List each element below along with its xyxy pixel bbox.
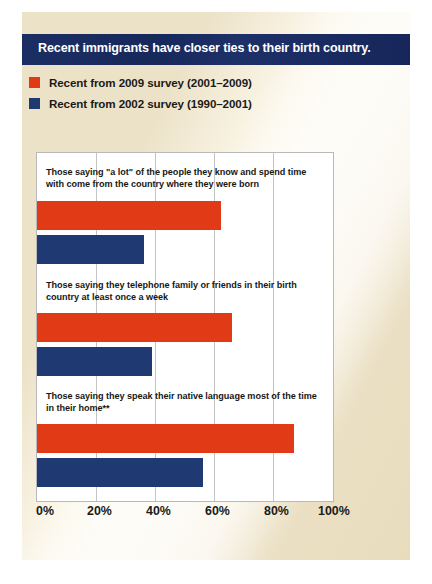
bar-red [37,201,221,230]
plot-wrapper: Those saying "a lot" of the people they … [36,152,346,502]
legend-swatch-blue [29,98,40,109]
category-label: Those saying "a lot" of the people they … [46,166,326,190]
bar-blue [37,347,152,376]
plot-area: Those saying "a lot" of the people they … [36,152,334,502]
chart-card: Recent immigrants have closer ties to th… [22,12,410,560]
bar-red [37,313,232,342]
bar-blue [37,235,144,264]
page-title: Recent immigrants have closer ties to th… [38,41,371,55]
bar-red [37,424,294,453]
x-tick-label: 0% [36,504,54,518]
category-label: Those saying they telephone family or fr… [46,279,326,303]
title-banner: Recent immigrants have closer ties to th… [22,34,410,65]
x-axis: 0% 20% 40% 60% 80% 100% [36,504,376,524]
bar-blue [37,458,203,487]
legend-swatch-red [29,77,40,88]
x-tick-label: 20% [87,504,112,518]
x-tick-label: 60% [205,504,230,518]
category-label: Those saying they speak their native lan… [46,390,326,414]
legend-item: Recent from 2009 survey (2001–2009) [28,72,252,93]
legend-item: Recent from 2002 survey (1990–2001) [28,93,252,114]
figure: Recent immigrants have closer ties to th… [0,0,432,584]
x-tick-label: 40% [146,504,171,518]
x-tick-label: 80% [264,504,289,518]
chart-legend: Recent from 2009 survey (2001–2009) Rece… [28,72,252,114]
x-tick-label: 100% [318,504,350,518]
legend-label: Recent from 2002 survey (1990–2001) [49,97,252,110]
legend-label: Recent from 2009 survey (2001–2009) [49,76,252,89]
